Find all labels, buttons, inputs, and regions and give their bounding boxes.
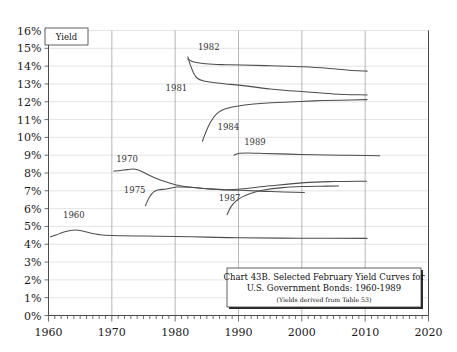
y-tick-label-0: 0%: [24, 310, 41, 323]
chart-caption-box: Chart 43B. Selected February Yield Curve…: [223, 268, 425, 309]
curve-label-1970: 1970: [116, 154, 138, 164]
y-tick-label-12: 12%: [17, 96, 41, 109]
x-tick-label-2010: 2010: [351, 326, 379, 339]
curve-labels: 19601970197519811982198419891987: [63, 42, 266, 221]
y-tick-label-16: 16%: [17, 25, 41, 38]
x-tick-label-1960: 1960: [35, 326, 63, 339]
y-tick-label-2: 2%: [24, 274, 41, 287]
caption-line-1: Chart 43B. Selected February Yield Curve…: [223, 272, 425, 282]
y-tick-label-1: 1%: [24, 292, 41, 305]
curve-label-1975: 1975: [124, 185, 146, 195]
caption-line-3: (Yields derived from Table 53): [277, 296, 372, 303]
caption-line-2: U.S. Government Bonds: 1960-1989: [247, 283, 401, 293]
yield-axis-label-text: Yield: [55, 32, 78, 42]
curve-label-1989: 1989: [244, 137, 266, 147]
curve-label-1987: 1987: [219, 193, 241, 203]
y-tick-label-7: 7%: [24, 185, 41, 198]
y-tick-label-8: 8%: [24, 167, 41, 180]
y-tick-label-9: 9%: [24, 149, 41, 162]
y-tick-label-4: 4%: [24, 238, 41, 251]
curve-1982: [188, 59, 367, 71]
curve-label-1982: 1982: [198, 42, 220, 52]
y-axis-tick-labels: 0%1%2%3%4%5%6%7%8%9%10%11%12%13%14%15%16…: [17, 25, 41, 323]
x-tick-label-2020: 2020: [415, 326, 443, 339]
curve-label-1984: 1984: [218, 122, 240, 132]
y-tick-label-14: 14%: [17, 60, 41, 73]
x-axis-tick-labels: 1960197019801990200020102020: [35, 326, 443, 339]
y-tick-label-13: 13%: [17, 78, 41, 91]
y-tick-label-3: 3%: [24, 256, 41, 269]
curve-label-1960: 1960: [63, 210, 85, 220]
curve-1981: [188, 57, 367, 95]
x-tick-label-1970: 1970: [98, 326, 126, 339]
y-tick-label-5: 5%: [24, 220, 41, 233]
y-tick-label-6: 6%: [24, 203, 41, 216]
x-tick-label-2000: 2000: [288, 326, 316, 339]
y-tick-label-15: 15%: [17, 42, 41, 55]
yield-axis-label-box: Yield: [45, 28, 88, 45]
curve-1960: [50, 230, 367, 238]
y-tick-label-11: 11%: [17, 114, 41, 127]
y-tick-label-10: 10%: [17, 131, 41, 144]
x-tick-label-1980: 1980: [161, 326, 189, 339]
curve-label-1981: 1981: [166, 83, 188, 93]
curve-1984: [202, 100, 367, 142]
yield-curve-chart: 0%1%2%3%4%5%6%7%8%9%10%11%12%13%14%15%16…: [0, 0, 457, 352]
chart-page: 0%1%2%3%4%5%6%7%8%9%10%11%12%13%14%15%16…: [0, 0, 457, 352]
x-tick-label-1990: 1990: [225, 326, 253, 339]
